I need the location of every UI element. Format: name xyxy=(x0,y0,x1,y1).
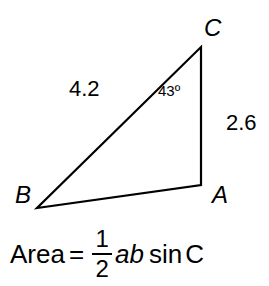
vertex-label-a: A xyxy=(212,183,228,207)
fraction-numerator: 1 xyxy=(95,227,108,251)
area-formula: Area = 1 2 ab sin C xyxy=(10,224,204,284)
formula-arg: C xyxy=(185,239,204,270)
vertex-label-c: C xyxy=(204,16,221,40)
side-label-ca: 2.6 xyxy=(226,112,257,134)
formula-equals: = xyxy=(69,239,84,270)
formula-fraction: 1 2 xyxy=(92,227,112,281)
angle-label-c: 43º xyxy=(158,83,180,98)
fraction-denominator: 2 xyxy=(95,257,108,281)
side-label-bc: 4.2 xyxy=(69,78,100,100)
vertex-label-b: B xyxy=(15,183,31,207)
formula-lhs: Area xyxy=(10,239,65,270)
formula-vars: ab xyxy=(115,239,144,270)
formula-func: sin xyxy=(149,239,182,270)
